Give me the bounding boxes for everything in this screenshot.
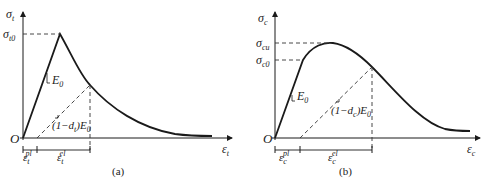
x-axis-label-b: εc — [467, 143, 475, 158]
elastic-strain-label-a: εtel — [57, 150, 65, 166]
y-axis-label-b: σc — [258, 12, 267, 27]
ultimate-stress-label-b: σcu — [256, 37, 269, 52]
peak-stress-label-a: σt0 — [3, 28, 15, 43]
damaged-slope-label-a: (1−dt)E0 — [52, 120, 91, 134]
panel-b-graphics — [272, 12, 480, 153]
caption-a: (a) — [112, 165, 124, 177]
caption-b: (b) — [339, 165, 352, 177]
plastic-strain-label-b: εcpl — [279, 150, 289, 166]
origin-label-a: O — [10, 132, 19, 145]
yield-stress-label-b: σc0 — [256, 54, 269, 69]
y-axis-label-a: σt — [6, 8, 14, 23]
slope-label-b: E0 — [297, 90, 308, 105]
x-axis-label-a: εt — [222, 143, 229, 158]
plastic-strain-label-a: εtpl — [23, 150, 32, 166]
origin-label-b: O — [263, 132, 272, 145]
slope-label-a: E0 — [52, 74, 63, 89]
damaged-slope-label-b: (1−dc)E0 — [331, 105, 371, 119]
diagram-graphics — [0, 0, 493, 188]
elastic-strain-label-b: εcel — [328, 150, 338, 166]
stress-strain-figure: σt σt0 E0 (1−dt)E0 O εt εtpl εtel (a) σc… — [0, 0, 493, 188]
